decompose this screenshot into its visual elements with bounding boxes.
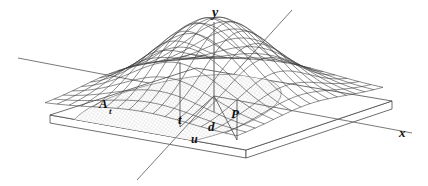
point-label-t: t xyxy=(178,112,182,127)
surface-plot-canvas: y x A t t d P u xyxy=(0,0,428,186)
axis-label-u: u xyxy=(191,132,198,146)
base-slab xyxy=(50,60,392,164)
y-axis-label: y xyxy=(210,5,219,20)
surface-plot-figure: y x A t t d P u xyxy=(0,0,428,186)
distance-label-d: d xyxy=(208,119,215,134)
point-label-P: P xyxy=(231,106,240,121)
x-axis-label: x xyxy=(398,125,406,140)
region-label-A: A xyxy=(98,96,108,111)
